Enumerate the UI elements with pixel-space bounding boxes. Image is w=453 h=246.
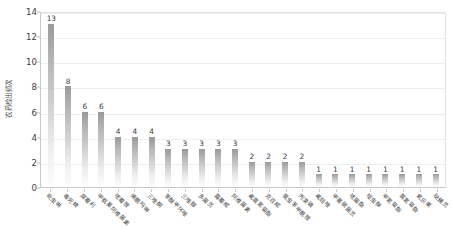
x-label-slot: 烯酰吗啉	[126, 189, 143, 246]
bar[interactable]	[199, 149, 205, 187]
x-axis-tick-mark	[134, 189, 135, 192]
x-label-slot: 甲氰菊酯	[378, 189, 395, 246]
x-axis-tick-mark	[319, 189, 320, 192]
x-label-slot: 甲基硫菌灵	[328, 189, 345, 246]
bar-slot: 4	[143, 13, 160, 187]
x-label-slot: 氧乐果	[412, 189, 429, 246]
bar[interactable]	[48, 24, 54, 187]
x-label-slot: 吡虫啉	[42, 189, 59, 246]
x-label-slot: 丙溴磷	[294, 189, 311, 246]
bar[interactable]	[98, 112, 104, 187]
x-label-slot: 氯虫苯甲酰胺	[277, 189, 294, 246]
bar-slot: 1	[377, 13, 394, 187]
x-label-slot: 多菌灵	[193, 189, 210, 246]
bar-slot: 1	[344, 13, 361, 187]
bar-value-label: 2	[283, 153, 288, 160]
x-label-slot: 三唑酮	[143, 189, 160, 246]
x-label-slot: 哒螨灵	[428, 189, 445, 246]
bar[interactable]	[433, 174, 439, 187]
bar[interactable]	[265, 162, 271, 187]
bar[interactable]	[65, 86, 71, 187]
bar[interactable]	[382, 174, 388, 187]
x-label-slot: 克百威	[260, 189, 277, 246]
bar[interactable]	[115, 137, 121, 187]
x-label-slot: 腐霉利	[76, 189, 93, 246]
bar-value-label: 4	[116, 128, 121, 135]
bar-slot: 1	[360, 13, 377, 187]
bar-slot: 3	[227, 13, 244, 187]
bar[interactable]	[316, 174, 322, 187]
bar-value-label: 1	[350, 166, 355, 173]
bar-slot: 4	[110, 13, 127, 187]
bar-value-label: 1	[333, 166, 338, 173]
x-axis-tick-mark	[84, 189, 85, 192]
bar-slot: 1	[394, 13, 411, 187]
x-label-slot: 氟硅唑	[311, 189, 328, 246]
bar-chart: 农药检出频次 02468101214 138664443333322221111…	[0, 0, 453, 246]
x-axis-tick-mark	[67, 189, 68, 192]
bar-slot: 1	[310, 13, 327, 187]
x-axis-tick-mark	[235, 189, 236, 192]
bar-slot: 3	[160, 13, 177, 187]
x-axis-tick-mark	[403, 189, 404, 192]
x-label-slot: 氯氰菊酯	[395, 189, 412, 246]
bar[interactable]	[282, 162, 288, 187]
bar[interactable]	[349, 174, 355, 187]
y-axis-title-label: 农药检出频次	[4, 79, 13, 117]
bar-value-label: 1	[433, 166, 438, 173]
bar[interactable]	[399, 174, 405, 187]
bar-value-label: 1	[400, 166, 405, 173]
y-axis-tick-14: 14	[26, 8, 37, 17]
bar-value-label: 4	[149, 128, 154, 135]
x-axis-tick-mark	[420, 189, 421, 192]
bar[interactable]	[299, 162, 305, 187]
bar-value-label: 2	[266, 153, 271, 160]
x-axis-tick-mark	[336, 189, 337, 192]
bar-value-label: 8	[66, 78, 71, 85]
x-label-slot: 氟氯氰菊酯	[244, 189, 261, 246]
x-label-slot: 嘧霉胺	[109, 189, 126, 246]
bar-value-label: 4	[133, 128, 138, 135]
x-label-slot: 三唑醇	[176, 189, 193, 246]
x-axis-tick-mark	[50, 189, 51, 192]
bar[interactable]	[165, 149, 171, 187]
x-axis-tick-label: 哒螨灵	[432, 193, 449, 210]
bar[interactable]	[416, 174, 422, 187]
bar[interactable]	[82, 112, 88, 187]
bar-slot: 1	[327, 13, 344, 187]
bars-layer: 1386644433333222211111111	[41, 13, 445, 187]
bar[interactable]	[132, 137, 138, 187]
bar-value-label: 2	[249, 153, 254, 160]
x-axis-tick-mark	[302, 189, 303, 192]
bar-value-label: 6	[99, 103, 104, 110]
x-label-slot: 甲氨基阿维菌素	[92, 189, 109, 246]
bar-slot: 8	[60, 13, 77, 187]
y-axis-title: 农药检出频次	[1, 0, 15, 196]
bar-value-label: 1	[383, 166, 388, 173]
bar-slot: 3	[210, 13, 227, 187]
bar-slot: 2	[260, 13, 277, 187]
bar-value-label: 6	[82, 103, 87, 110]
bar-slot: 3	[177, 13, 194, 187]
y-axis-tick-12: 12	[26, 33, 37, 42]
bar-value-label: 3	[216, 140, 221, 147]
bar-value-label: 1	[416, 166, 421, 173]
bar-slot: 3	[193, 13, 210, 187]
bar-slot: 2	[277, 13, 294, 187]
bar[interactable]	[332, 174, 338, 187]
bar[interactable]	[249, 162, 255, 187]
x-axis-tick-labels: 吡虫啉毒死蜱腐霉利甲氨基阿维菌素嘧霉胺烯酰吗啉三唑酮苯醚甲环唑三唑醇多菌灵霜霉威…	[40, 189, 446, 246]
bar[interactable]	[232, 149, 238, 187]
x-axis-tick-mark	[386, 189, 387, 192]
bar[interactable]	[149, 137, 155, 187]
bar-value-label: 1	[366, 166, 371, 173]
x-label-slot: 苯醚甲环唑	[160, 189, 177, 246]
y-axis-tick-10: 10	[26, 58, 37, 67]
bar-value-label: 1	[316, 166, 321, 173]
bar[interactable]	[182, 149, 188, 187]
bar-slot: 6	[93, 13, 110, 187]
bar-value-label: 3	[166, 140, 171, 147]
bar-value-label: 3	[199, 140, 204, 147]
bar[interactable]	[215, 149, 221, 187]
bar[interactable]	[366, 174, 372, 187]
